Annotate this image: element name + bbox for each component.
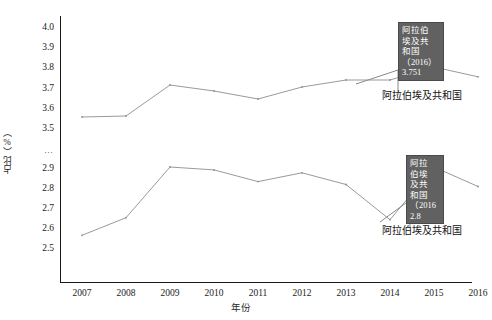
series-label-upper: 阿拉伯埃及共和国 [382,87,462,102]
tooltip-upper-value: 3.751 [402,67,440,78]
data-point[interactable] [213,90,215,92]
tooltip-lower-year: （2016 [410,200,440,211]
tooltip-lower-value: 2.8 [410,211,440,222]
tooltip-lower-line-1: 阿拉 [410,158,440,169]
tooltip-upper-line-1: 阿拉伯 [402,25,440,36]
tooltip-upper-line-3: 和国 [402,46,440,57]
data-point[interactable] [389,219,391,221]
tooltip-lower-line-4: 和国 [410,190,440,201]
data-point[interactable] [301,172,303,174]
data-point[interactable] [477,186,479,188]
data-point[interactable] [81,116,83,118]
data-point[interactable] [477,76,479,78]
data-point[interactable] [257,98,259,100]
data-point[interactable] [257,181,259,183]
data-point[interactable] [125,115,127,117]
data-point[interactable] [81,234,83,236]
data-point[interactable] [125,217,127,219]
tooltip-lower-line-2: 伯埃 [410,169,440,180]
tooltip-lower-line-3: 及共 [410,179,440,190]
data-point[interactable] [389,79,391,81]
tooltip-upper[interactable]: 阿拉伯 埃及共 和国 （2016） 3.751 [398,22,444,81]
data-point[interactable] [169,84,171,86]
tooltip-lower[interactable]: 阿拉 伯埃 及共 和国 （2016 2.8 [406,155,444,224]
tooltip-upper-line-2: 埃及共 [402,36,440,47]
tooltip-upper-year: （2016） [402,57,440,68]
data-point[interactable] [213,169,215,171]
data-point[interactable] [169,166,171,168]
data-point[interactable] [301,86,303,88]
series-label-lower: 阿拉伯埃及共和国 [382,222,462,237]
data-point[interactable] [345,79,347,81]
data-point[interactable] [345,184,347,186]
